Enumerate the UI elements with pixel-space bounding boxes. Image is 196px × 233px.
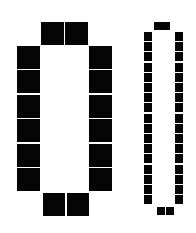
seat-right [175,73,183,82]
seat-right [175,124,183,133]
seat-left [144,93,152,102]
seat-left [144,154,152,163]
seat-left [144,114,152,123]
narrow-table [0,0,196,233]
seat-right [175,175,183,184]
seat-right [175,32,183,41]
seat-bottom [157,207,165,215]
seat-left [144,124,152,133]
seat-left [144,32,152,41]
seat-right [175,103,183,112]
seat-right [175,154,183,163]
seat-right [175,134,183,143]
seat-left [144,195,152,204]
seat-bottom [166,207,174,215]
seat-left [144,175,152,184]
seat-top [154,22,162,30]
seat-left [144,144,152,153]
seat-left [144,83,152,92]
seat-left [144,52,152,61]
seat-right [175,114,183,123]
seat-right [175,185,183,194]
seat-right [175,42,183,51]
seat-right [175,93,183,102]
seat-right [175,52,183,61]
seat-left [144,63,152,72]
seat-left [144,185,152,194]
seat-right [175,144,183,153]
seat-left [144,42,152,51]
seat-left [144,103,152,112]
seat-left [144,165,152,174]
seat-right [175,83,183,92]
seat-left [144,134,152,143]
seat-right [175,165,183,174]
seat-top [162,22,170,30]
seat-left [144,73,152,82]
seat-right [175,63,183,72]
seat-right [175,195,183,204]
